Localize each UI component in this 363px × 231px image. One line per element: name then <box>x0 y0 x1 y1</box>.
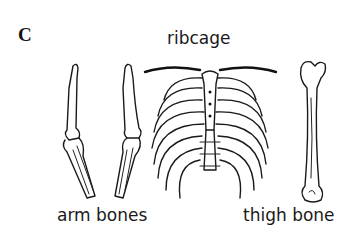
ribcage-illustration <box>140 60 280 210</box>
thigh-bone-illustration <box>295 58 335 206</box>
arm-bones-label: arm bones <box>57 205 147 225</box>
ribcage-label: ribcage <box>167 28 231 48</box>
panel-letter: C <box>18 24 32 46</box>
